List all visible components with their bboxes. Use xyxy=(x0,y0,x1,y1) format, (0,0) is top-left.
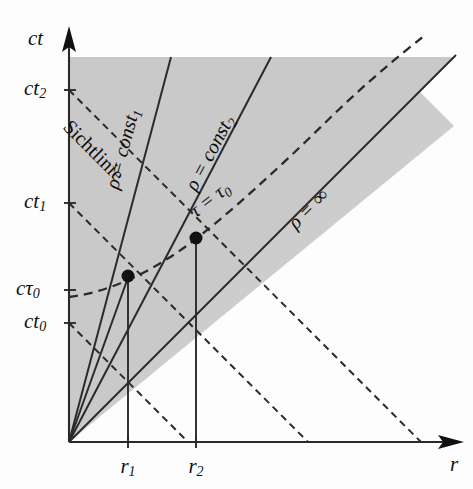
tick-label-ctau0: cτ0 xyxy=(16,276,40,301)
tick-label-ct2: ct2 xyxy=(24,76,46,101)
spacetime-diagram: ct r ct2 ct1 cτ0 ct0 r1 r2 Sichtlinie ρ … xyxy=(0,0,473,489)
diagram-canvas: ct r ct2 ct1 cτ0 ct0 r1 r2 Sichtlinie ρ … xyxy=(0,0,473,489)
tick-label-r2: r2 xyxy=(188,454,203,479)
event-dot-1 xyxy=(122,270,135,283)
tick-label-ct1: ct1 xyxy=(24,189,46,214)
event-dot-2 xyxy=(190,232,203,245)
tick-label-ct0: ct0 xyxy=(24,309,46,334)
r-axis-label: r xyxy=(450,452,459,476)
tick-label-r1: r1 xyxy=(120,454,135,479)
ct-axis-label: ct xyxy=(28,26,44,50)
